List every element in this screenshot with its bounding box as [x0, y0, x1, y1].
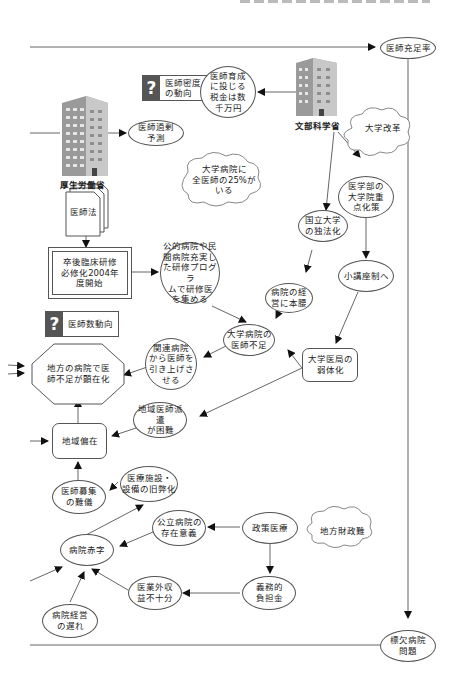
label-mext: 文部科学省	[295, 119, 340, 131]
box-residency-2004-text: 卒後臨床研修 必修化2004年 度開始	[52, 251, 128, 295]
doc-text-med-law: 医師法	[66, 205, 100, 219]
node-doctor-sufficiency: 医師充足率	[380, 37, 436, 59]
node-regional-dispatch-difficult: 地域医師派遣 が困難	[133, 402, 187, 438]
question-box-label: 医師密度 の動向	[160, 76, 206, 100]
cloud-text-local-finance: 地方財政難	[312, 524, 372, 538]
node-training-tax: 医師育成 に投じる 税金は数 千万円	[200, 66, 256, 118]
node-recruitment-difficult: 医師募集 の難儀	[52, 480, 106, 514]
box-residency-2004: 卒後臨床研修 必修化2004年 度開始	[48, 247, 132, 299]
building-mhlw-icon	[62, 96, 108, 176]
node-medical-office-weakening: 大学医局の 弱体化	[302, 348, 358, 382]
node-national-univ-incorp: 国立大学 の独法化	[298, 210, 348, 242]
node-public-hospital-purpose: 公立病院の 存在意義	[152, 510, 206, 546]
question-mark-icon: ?	[143, 76, 160, 100]
cloud-text-univ-hospital-25pct: 大学病院に 全医師の25%が いる	[184, 162, 264, 198]
node-grad-school-focus: 医学部の 大学院重 点化策	[338, 176, 394, 218]
node-facility-aging: 医療施設・ 設備の旧弊化	[120, 466, 178, 502]
node-hospital-deficit: 病院赤字	[60, 534, 114, 566]
node-public-private-programs: 公的病院や民 間病院充実し た研修プログラ ムで研修医 を集める	[160, 242, 220, 304]
node-non-medical-revenue: 医業外収 益不十分	[128, 576, 182, 610]
node-doctor-surplus-forecast: 医師過剰 予測	[128, 120, 184, 146]
node-hospital-shortage-issue: 標欠病院 問題	[380, 630, 436, 662]
node-univ-hospital-shortage: 大学病院の 医師不足	[223, 324, 275, 356]
label-mhlw: 厚生労働省	[60, 178, 105, 190]
node-obligatory-burden: 義務的 負担金	[242, 576, 296, 610]
building-mext-icon	[296, 58, 337, 116]
node-rural-shortage-visible: 地方の病院で医 師不足が顕在化	[32, 356, 124, 392]
node-withdraw-doctors: 関連病院 から医師を 引き上げさ せる	[145, 338, 197, 390]
question-box-doctor-density: ? 医師密度 の動向	[142, 75, 207, 101]
question-box-label: 医師数動向	[63, 312, 118, 336]
question-box-doctor-count: ? 医師数動向	[45, 311, 119, 337]
question-mark-icon: ?	[46, 312, 63, 336]
node-management-delay: 病院経営 の遅れ	[42, 604, 98, 638]
cloud-text-university-reform: 大学改革	[355, 118, 411, 138]
node-hospital-management-focus: 病院の経 営に本腰	[265, 283, 313, 313]
node-regional-maldistribution: 地域偏在	[52, 423, 107, 459]
node-small-chair-system: 小講座制へ	[338, 260, 394, 292]
node-policy-medicine: 政策医療	[242, 512, 298, 544]
